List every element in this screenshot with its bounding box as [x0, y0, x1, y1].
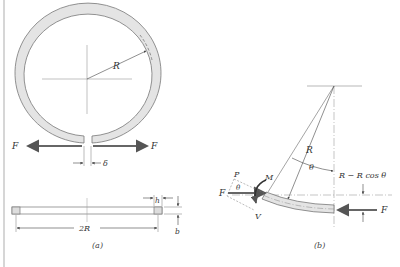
- panel-a: R F F δ h b 2R (a): [11, 3, 182, 250]
- svg-text:F: F: [218, 188, 226, 198]
- diameter-label: 2R: [78, 224, 90, 233]
- svg-text:F: F: [150, 141, 158, 151]
- radius-label: R: [112, 61, 120, 71]
- svg-text:b: b: [175, 227, 180, 236]
- svg-text:M: M: [264, 173, 274, 182]
- split-ring-diagram: R F F δ h b 2R (a): [0, 0, 400, 267]
- svg-text:h: h: [155, 196, 160, 205]
- split-ring: [15, 3, 161, 143]
- offset-label: R − R cos θ: [338, 171, 386, 180]
- gap-label: δ: [103, 159, 108, 168]
- caption-a: (a): [92, 241, 103, 250]
- svg-text:F: F: [11, 141, 19, 151]
- svg-text:P: P: [233, 170, 240, 179]
- svg-text:θ: θ: [236, 184, 241, 192]
- caption-b: (b): [314, 241, 325, 250]
- panel-b: R θ R − R cos θ F F P θ V M (b): [218, 86, 392, 250]
- svg-text:V: V: [255, 212, 262, 221]
- svg-text:F: F: [380, 205, 388, 215]
- svg-text:θ: θ: [309, 163, 314, 172]
- svg-text:R: R: [305, 145, 313, 155]
